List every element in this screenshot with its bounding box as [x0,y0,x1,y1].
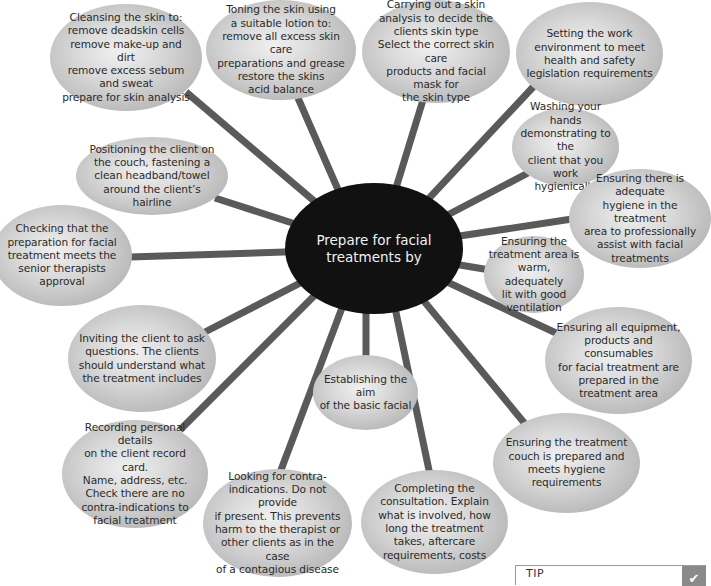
center-node-text: Prepare for facial treatments by [316,232,431,266]
center-node: Prepare for facial treatments by [285,183,463,314]
node-work-environment: Setting the work environment to meet hea… [516,2,663,106]
node-couch: Ensuring the treatment couch is prepared… [493,413,640,513]
node-contra-indications: Looking for contra- indications. Do not … [203,469,352,577]
tip-label: TIP [526,567,544,580]
node-skin-analysis-text: Carrying out a skin analysis to decide t… [372,0,500,105]
node-warm-area-text: Ensuring the treatment area is warm, ade… [488,235,580,315]
check-icon: ✔ [682,566,706,586]
node-equipment: Ensuring all equipment, products and con… [545,307,692,414]
node-adequate-hygiene: Ensuring there is adequate hygiene in th… [569,169,711,268]
node-warm-area: Ensuring the treatment area is warm, ade… [484,236,584,313]
node-cleansing-text: Cleansing the skin to: remove deadskin c… [60,11,192,104]
node-toning: Toning the skin using a suitable lotion … [206,0,356,100]
node-couch-text: Ensuring the treatment couch is prepared… [506,436,627,489]
node-consultation-text: Completing the consultation. Explain wha… [378,482,491,562]
node-toning-text: Toning the skin using a suitable lotion … [216,3,346,96]
node-checking-approval-text: Checking that the preparation for facial… [2,222,122,288]
node-cleansing: Cleansing the skin to: remove deadskin c… [50,4,202,111]
node-recording-text: Recording personal details on the client… [72,421,198,527]
node-skin-analysis: Carrying out a skin analysis to decide t… [362,0,510,103]
node-inviting-questions-text: Inviting the client to ask questions. Th… [79,332,205,385]
node-adequate-hygiene-text: Ensuring there is adequate hygiene in th… [575,172,705,265]
node-positioning-text: Positioning the client on the couch, fas… [86,143,218,209]
tip-box: TIP ✔ [515,565,706,585]
node-recording: Recording personal details on the client… [62,420,208,528]
node-contra-indications-text: Looking for contra- indications. Do not … [209,470,346,576]
node-consultation: Completing the consultation. Explain wha… [361,470,508,574]
node-establishing-aim-text: Establishing the aim of the basic facial [317,373,414,413]
node-equipment-text: Ensuring all equipment, products and con… [555,321,682,401]
node-inviting-questions: Inviting the client to ask questions. Th… [68,305,216,412]
node-work-environment-text: Setting the work environment to meet hea… [526,27,652,80]
node-establishing-aim: Establishing the aim of the basic facial [313,355,418,430]
node-positioning: Positioning the client on the couch, fas… [76,137,228,215]
